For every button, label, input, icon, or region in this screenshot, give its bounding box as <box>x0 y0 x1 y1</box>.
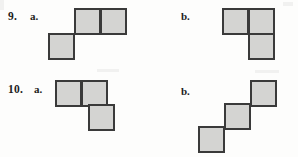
scan-artifact-middle <box>97 69 119 72</box>
figure-9b-square-3 <box>248 33 275 60</box>
worksheet-page: 9. a. b. 10. a. b. <box>0 0 298 157</box>
figure-9a-square-2 <box>100 8 127 35</box>
figure-9a-square-1 <box>74 8 101 35</box>
figure-9b-square-2 <box>248 8 275 35</box>
problem-9-part-b-label: b. <box>181 11 190 22</box>
figure-10b-square-3 <box>250 80 277 107</box>
figure-10a-square-2 <box>81 80 108 107</box>
figure-10a-square-1 <box>55 80 82 107</box>
figure-10a-square-3 <box>88 104 115 131</box>
scan-artifact-corner <box>283 2 293 6</box>
problem-number-9: 9. <box>8 11 17 23</box>
problem-9-part-a-label: a. <box>30 11 38 22</box>
scan-artifact-right <box>255 70 279 73</box>
figure-9a-square-3 <box>48 33 75 60</box>
problem-10-part-b-label: b. <box>181 86 190 97</box>
figure-10b-square-2 <box>224 103 251 130</box>
figure-10b-square-1 <box>198 126 225 153</box>
figure-9b-square-1 <box>222 8 249 35</box>
scan-artifact-top <box>0 0 4 10</box>
problem-number-10: 10. <box>8 84 23 96</box>
problem-10-part-a-label: a. <box>34 84 42 95</box>
